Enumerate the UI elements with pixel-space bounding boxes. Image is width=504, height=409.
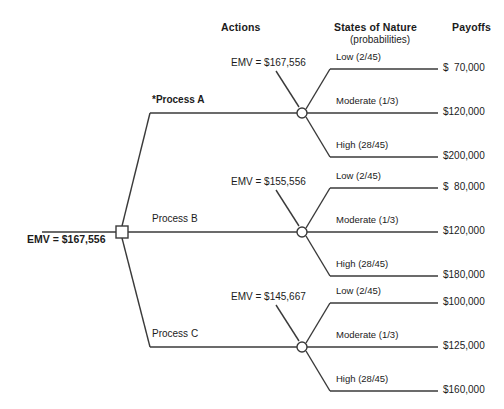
payoff-label-3-3: $160,000 [443, 384, 485, 396]
chance-node-3 [297, 342, 307, 352]
decision-tree-figure: Actions States of Nature (probabilities)… [0, 0, 504, 409]
chance-node-2 [297, 227, 307, 237]
header-states-of-nature: States of Nature [334, 21, 417, 33]
action-label-1: *Process A [152, 94, 204, 106]
emv-label-3: EMV = $145,667 [231, 291, 306, 303]
tree-nodes [116, 108, 307, 352]
header-payoffs: Payoffs [452, 21, 491, 33]
decision-node-root [116, 226, 128, 238]
payoff-label-3-1: $100,000 [443, 296, 485, 308]
action-label-3: Process C [152, 328, 198, 340]
header-states-probabilities: (probabilities) [350, 34, 410, 46]
payoff-label-1-2: $120,000 [443, 106, 485, 118]
state-label-3-3: High (28/45) [336, 374, 388, 385]
state-label-3-1: Low (2/45) [336, 286, 381, 297]
tree-edges [42, 69, 438, 391]
payoff-label-2-3: $180,000 [443, 269, 485, 281]
state-label-3-2: Moderate (1/3) [336, 330, 398, 341]
payoff-label-3-2: $125,000 [443, 340, 485, 352]
header-actions: Actions [221, 21, 261, 33]
payoff-label-1-1: $ 70,000 [443, 62, 485, 74]
state-label-2-3: High (28/45) [336, 259, 388, 270]
action-label-2: Process B [152, 213, 198, 225]
chance-node-1 [297, 108, 307, 118]
emv-label-1: EMV = $167,556 [231, 57, 306, 69]
state-label-2-1: Low (2/45) [336, 171, 381, 182]
state-label-2-2: Moderate (1/3) [336, 215, 398, 226]
payoff-label-2-1: $ 80,000 [443, 181, 485, 193]
state-label-1-2: Moderate (1/3) [336, 96, 398, 107]
emv-label-2: EMV = $155,556 [231, 176, 306, 188]
state-label-1-1: Low (2/45) [336, 52, 381, 63]
root-emv-label: EMV = $167,556 [27, 233, 106, 245]
state-label-1-3: High (28/45) [336, 140, 388, 151]
payoff-label-2-2: $120,000 [443, 225, 485, 237]
payoff-label-1-3: $200,000 [443, 150, 485, 162]
